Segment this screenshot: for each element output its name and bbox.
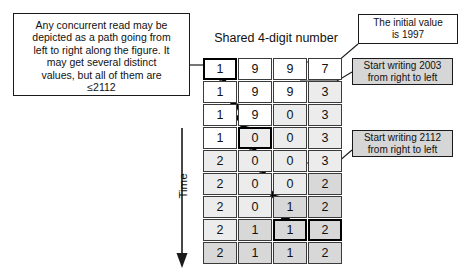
note-line: The initial value bbox=[373, 17, 442, 29]
digit-cell: 1 bbox=[238, 219, 272, 241]
grid-row: 2003 bbox=[203, 150, 343, 172]
digit-cell: 1 bbox=[203, 127, 237, 149]
grid-row: 1997 bbox=[203, 58, 343, 80]
digit-cell: 1 bbox=[203, 81, 237, 103]
note-line: from right to left bbox=[368, 144, 437, 156]
note-write-2003: Start writing 2003 from right to left bbox=[352, 58, 453, 85]
digit-cell: 1 bbox=[203, 58, 237, 80]
digit-cell: 0 bbox=[273, 173, 307, 195]
time-axis: Time bbox=[172, 128, 192, 262]
digit-cell: 2 bbox=[308, 173, 342, 195]
time-axis-label: Time bbox=[177, 159, 189, 213]
digit-cell: 2 bbox=[203, 219, 237, 241]
grid-row: 2112 bbox=[203, 242, 343, 264]
digit-cell: 0 bbox=[273, 150, 307, 172]
digit-cell: 3 bbox=[308, 127, 342, 149]
digit-cell: 2 bbox=[203, 150, 237, 172]
digit-cell: 9 bbox=[273, 58, 307, 80]
digit-cell: 3 bbox=[308, 81, 342, 103]
digit-cell: 2 bbox=[203, 196, 237, 218]
digit-cell: 9 bbox=[238, 58, 272, 80]
note-line: values, but all of them are bbox=[20, 69, 183, 81]
note-line: is 1997 bbox=[392, 29, 424, 41]
note-line: may get several distinct bbox=[20, 56, 183, 68]
note-initial-value: The initial value is 1997 bbox=[358, 14, 458, 44]
note-write-2112: Start writing 2112 from right to left bbox=[352, 130, 453, 157]
digit-cell: 0 bbox=[238, 196, 272, 218]
digit-cell: 0 bbox=[273, 127, 307, 149]
digit-cell: 1 bbox=[273, 219, 307, 241]
digit-cell: 2 bbox=[308, 219, 342, 241]
digit-cell: 2 bbox=[203, 242, 237, 264]
grid-row: 1003 bbox=[203, 127, 343, 149]
note-line: left to right along the figure. It bbox=[20, 44, 183, 56]
grid-row: 2002 bbox=[203, 173, 343, 195]
digit-cell: 1 bbox=[273, 196, 307, 218]
digit-cell: 0 bbox=[238, 127, 272, 149]
digit-cell: 3 bbox=[308, 150, 342, 172]
digit-cell: 0 bbox=[238, 173, 272, 195]
note-line: Start writing 2003 bbox=[364, 60, 442, 72]
shared-number-grid: 199719931903100320032002201221122112 bbox=[203, 58, 343, 264]
note-line: depicted as a path going from bbox=[20, 31, 183, 43]
grid-row: 1903 bbox=[203, 104, 343, 126]
digit-cell: 9 bbox=[238, 81, 272, 103]
grid-row: 2112 bbox=[203, 219, 343, 241]
note-line: from right to left bbox=[368, 72, 437, 84]
digit-cell: 1 bbox=[273, 242, 307, 264]
note-line: Start writing 2112 bbox=[364, 132, 441, 144]
note-line: Any concurrent read may be bbox=[20, 19, 183, 31]
grid-row: 2012 bbox=[203, 196, 343, 218]
digit-cell: 0 bbox=[238, 150, 272, 172]
digit-cell: 7 bbox=[308, 58, 342, 80]
diagram-canvas: Any concurrent read may be depicted as a… bbox=[0, 0, 468, 279]
digit-cell: 9 bbox=[273, 81, 307, 103]
digit-cell: 9 bbox=[238, 104, 272, 126]
digit-cell: 1 bbox=[203, 104, 237, 126]
note-line: ≤2112 bbox=[20, 81, 183, 93]
digit-cell: 0 bbox=[273, 104, 307, 126]
grid-row: 1993 bbox=[203, 81, 343, 103]
digit-cell: 3 bbox=[308, 104, 342, 126]
grid-title: Shared 4-digit number bbox=[200, 31, 352, 45]
note-concurrent-read: Any concurrent read may be depicted as a… bbox=[13, 13, 190, 96]
digit-cell: 2 bbox=[308, 242, 342, 264]
digit-cell: 1 bbox=[238, 242, 272, 264]
digit-cell: 2 bbox=[203, 173, 237, 195]
digit-cell: 2 bbox=[308, 196, 342, 218]
